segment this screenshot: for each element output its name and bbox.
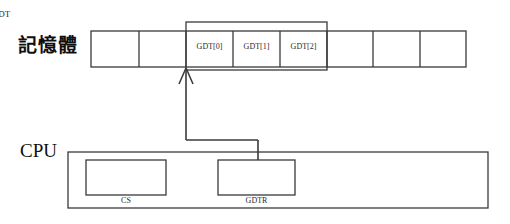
cpu-section-label: CPU [20,141,57,160]
gdt-entry-0-label: GDT[0] [186,43,233,51]
gdt-gdtr-diagram: 記憶體 CPU GDT GDT[0] GDT[1] GDT[2] CS GDTR [0,0,510,224]
cs-register-label: CS [86,197,166,205]
gdt-bracket-label-wrap: GDT [0,10,510,19]
gdtr-register-box [218,160,295,195]
cs-register-box [86,160,166,195]
gdtr-to-gdt-pointer [186,69,258,160]
gdt-bracket-label: GDT [0,9,10,19]
gdtr-register-label: GDTR [218,197,295,205]
gdt-entry-1-label: GDT[1] [233,43,280,51]
gdt-entry-2-label: GDT[2] [280,43,327,51]
memory-section-label: 記憶體 [18,36,78,55]
